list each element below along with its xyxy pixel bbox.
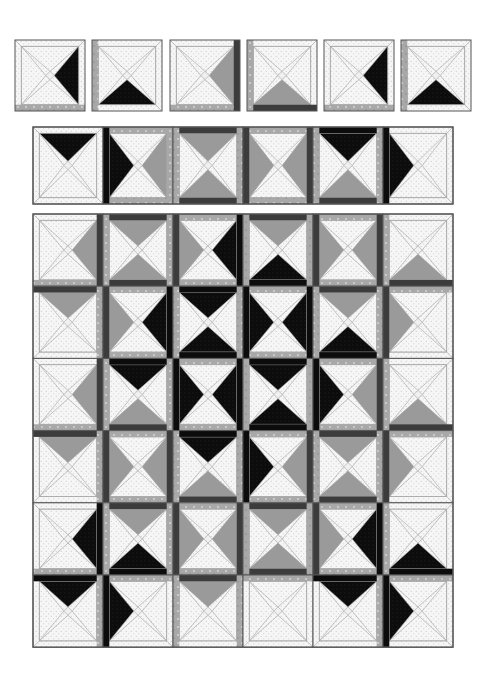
border-strip-l [313, 286, 319, 358]
quilt-block-r2-c2 [103, 286, 173, 358]
border-strip-t [103, 575, 173, 581]
border-strip-r [97, 358, 103, 430]
border-strip-b [173, 352, 243, 358]
quilt-block-r3-c2 [103, 358, 173, 430]
border-strip-b [383, 424, 453, 430]
border-strip-r [97, 214, 103, 286]
border-strip-l [173, 127, 179, 204]
border-strip-l [173, 575, 179, 647]
unit-block-2 [92, 40, 162, 111]
border-strip-b [15, 105, 85, 111]
border-strip-b [173, 497, 243, 503]
quilt-block-r1-c4 [243, 214, 313, 286]
border-strip-b [313, 424, 383, 430]
quilt-block-r6-c3 [173, 575, 243, 647]
border-strip-r [377, 286, 383, 358]
border-strip-l [243, 214, 249, 286]
border-strip-b [247, 105, 317, 111]
border-strip-b [243, 352, 313, 358]
quilt-block-r3-c4 [243, 358, 313, 430]
strip-block-6 [383, 127, 453, 204]
border-strip-r [167, 503, 173, 575]
border-strip-b [383, 569, 453, 575]
quilt-block-r6-c2 [103, 575, 173, 647]
border-strip-l [243, 431, 249, 503]
quilt-block-r1-c5 [313, 214, 383, 286]
unit-block-3 [170, 40, 240, 111]
border-strip-l [313, 358, 319, 430]
border-strip-b [173, 569, 243, 575]
border-strip-r [377, 358, 383, 430]
border-strip-l [173, 503, 179, 575]
border-strip-r [377, 431, 383, 503]
border-strip-l [173, 286, 179, 358]
border-strip-t [243, 127, 313, 133]
border-strip-t [173, 575, 243, 581]
border-strip-r [167, 286, 173, 358]
quilt-block-r1-c1 [33, 214, 103, 286]
border-strip-r [237, 575, 243, 647]
border-strip-l [243, 358, 249, 430]
border-strip-b [103, 352, 173, 358]
border-strip-b [313, 352, 383, 358]
border-strip-r [167, 127, 173, 204]
border-strip-t [243, 286, 313, 292]
border-strip-r [377, 575, 383, 647]
border-strip-t [173, 503, 243, 509]
unit-block-1 [15, 40, 85, 111]
border-strip-l [313, 214, 319, 286]
border-strip-r [377, 503, 383, 575]
border-strip-l [243, 286, 249, 358]
strip-block-5 [313, 127, 383, 204]
strip-block-3 [173, 127, 243, 204]
border-strip-l [103, 503, 109, 575]
quilt-block-r6-c1 [33, 575, 103, 647]
border-strip-r [237, 127, 243, 204]
border-strip-t [103, 127, 173, 133]
quilt-block-r2-c6 [383, 286, 453, 358]
border-strip-l [383, 431, 389, 503]
border-strip-r [167, 358, 173, 430]
quilt-block-r6-c6 [383, 575, 453, 647]
border-strip-l [243, 127, 249, 204]
border-strip-l [383, 127, 389, 204]
unit-block-5 [324, 40, 394, 111]
border-strip-b [243, 569, 313, 575]
border-strip-b [33, 280, 103, 286]
border-strip-l [103, 431, 109, 503]
quilt-block-r3-c1 [33, 358, 103, 430]
border-strip-b [103, 569, 173, 575]
quilt-block-r3-c6 [383, 358, 453, 430]
quilt-block-r4-c5 [313, 431, 383, 503]
border-strip-l [401, 40, 407, 111]
border-strip-t [173, 127, 243, 133]
border-strip-r [97, 503, 103, 575]
border-strip-t [313, 431, 383, 437]
border-strip-t [243, 358, 313, 364]
border-strip-b [313, 569, 383, 575]
border-strip-l [383, 214, 389, 286]
border-strip-t [313, 214, 383, 220]
border-strip-l [383, 358, 389, 430]
border-strip-l [103, 286, 109, 358]
border-strip-r [307, 431, 313, 503]
border-strip-b [33, 424, 103, 430]
border-strip-l [313, 431, 319, 503]
quilt-diagram [0, 0, 487, 682]
border-strip-b [383, 280, 453, 286]
border-strip-t [313, 503, 383, 509]
unit-blocks-row [15, 40, 471, 111]
quilt-block-r1-c6 [383, 214, 453, 286]
border-strip-t [243, 214, 313, 220]
strip-block-4 [243, 127, 313, 204]
quilt-block-r5-c1 [33, 503, 103, 575]
border-strip-t [33, 431, 103, 437]
border-strip-t [173, 286, 243, 292]
border-strip-l [383, 575, 389, 647]
border-strip-b [173, 424, 243, 430]
border-strip-l [247, 40, 253, 111]
assembled-strip-row [33, 127, 453, 204]
border-strip-t [173, 214, 243, 220]
border-strip-l [103, 127, 109, 204]
border-strip-l [173, 431, 179, 503]
